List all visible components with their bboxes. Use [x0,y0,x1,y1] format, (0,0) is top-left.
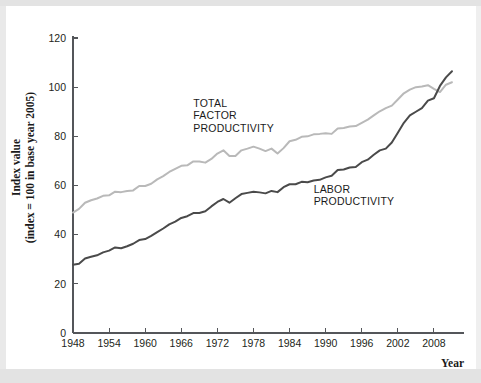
y-axis-tick-label: 40 [54,228,66,240]
productivity-line-chart: 0204060801001201948195419601966197219781… [6,6,476,369]
x-axis-tick-label: 1954 [97,337,121,349]
series-annotation-0-line-2: PRODUCTIVITY [193,122,274,134]
x-axis-tick-label: 1990 [314,337,338,349]
x-axis-tick-label: 1984 [278,337,302,349]
series-annotation-0-line-0: TOTAL [193,97,227,109]
series-annotation-0-line-1: FACTOR [193,109,237,121]
y-axis-title-line1: Index value [10,139,22,196]
y-axis-title-line2: (index = 100 in base year 2005) [24,92,37,244]
series-line-labor-productivity [73,71,452,264]
y-axis-tick-label: 100 [48,81,66,93]
page-band-bottom [0,369,481,383]
x-axis-tick-label: 2008 [422,337,446,349]
y-axis-tick-label: 60 [54,179,66,191]
series-annotation-1-line-1: PRODUCTIVITY [314,195,395,207]
x-axis-tick-label: 1978 [242,337,266,349]
series-annotation-1-line-0: LABOR [314,183,351,195]
page-band-right [476,6,481,369]
figure-container: 0204060801001201948195419601966197219781… [0,0,481,383]
chart-plot-area: 0204060801001201948195419601966197219781… [6,6,476,369]
x-axis-title: Year [441,357,464,369]
x-axis-tick-label: 1948 [61,337,85,349]
x-axis-tick-label: 1960 [134,337,158,349]
y-axis-tick-label: 20 [54,278,66,290]
x-axis-tick-label: 1972 [206,337,230,349]
y-axis-tick-label: 120 [48,32,66,44]
y-axis-title: Index value(index = 100 in base year 200… [10,92,37,244]
x-axis-tick-label: 2002 [386,337,410,349]
y-axis-tick-label: 80 [54,130,66,142]
x-axis-tick-label: 1996 [350,337,374,349]
x-axis-tick-label: 1966 [170,337,194,349]
